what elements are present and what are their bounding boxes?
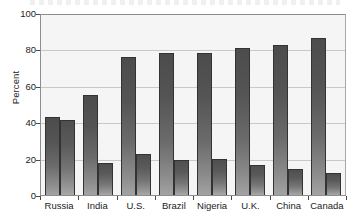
x-axis-tick-mark bbox=[346, 196, 347, 200]
bar-group bbox=[231, 15, 269, 195]
bar bbox=[159, 53, 174, 195]
x-axis-tick-label: Nigeria bbox=[193, 199, 231, 215]
x-axis-tick-label: U.K. bbox=[231, 199, 269, 215]
x-axis-tick-label: China bbox=[270, 199, 308, 215]
x-axis-tick-mark bbox=[308, 196, 309, 200]
bar-group bbox=[307, 15, 345, 195]
bar bbox=[60, 120, 75, 195]
bar bbox=[288, 169, 303, 195]
x-axis-tick-mark bbox=[117, 196, 118, 200]
bar bbox=[83, 95, 98, 195]
bar-group bbox=[155, 15, 193, 195]
bar-group bbox=[79, 15, 117, 195]
y-axis-tick-label: 20 bbox=[10, 155, 36, 165]
bar bbox=[121, 57, 136, 195]
y-axis-tick-label: 0 bbox=[10, 191, 36, 201]
bar bbox=[326, 173, 341, 195]
bar bbox=[273, 45, 288, 195]
y-axis: 020406080100 bbox=[0, 0, 36, 216]
cropped-title-artifact bbox=[30, 0, 340, 5]
x-axis-tick-mark bbox=[40, 196, 41, 200]
bar bbox=[197, 53, 212, 195]
bar bbox=[98, 163, 113, 195]
x-axis-tick-mark bbox=[155, 196, 156, 200]
x-axis-tick-label: Canada bbox=[308, 199, 346, 215]
bar-group bbox=[269, 15, 307, 195]
bar bbox=[235, 48, 250, 195]
bar-group bbox=[117, 15, 155, 195]
x-axis-tick-label: Russia bbox=[40, 199, 78, 215]
x-axis: RussiaIndiaU.S.BrazilNigeriaU.K.ChinaCan… bbox=[40, 199, 346, 215]
x-axis-tick-mark bbox=[231, 196, 232, 200]
x-axis-tick-label: Brazil bbox=[155, 199, 193, 215]
bars-layer bbox=[41, 15, 345, 195]
x-axis-tick-label: India bbox=[78, 199, 116, 215]
bar-chart-figure: Percent 020406080100 RussiaIndiaU.S.Braz… bbox=[0, 0, 358, 216]
y-axis-tick-label: 40 bbox=[10, 118, 36, 128]
x-axis-tick-label: U.S. bbox=[117, 199, 155, 215]
bar bbox=[174, 160, 189, 195]
bar-group bbox=[41, 15, 79, 195]
x-axis-tick-mark bbox=[78, 196, 79, 200]
bar bbox=[45, 117, 60, 195]
plot-area bbox=[40, 14, 346, 196]
x-axis-tick-mark bbox=[193, 196, 194, 200]
bar-group bbox=[193, 15, 231, 195]
bar bbox=[136, 154, 151, 195]
bar bbox=[212, 159, 227, 195]
y-axis-tick-label: 60 bbox=[10, 82, 36, 92]
bar bbox=[311, 38, 326, 195]
y-axis-tick-label: 100 bbox=[10, 9, 36, 19]
y-axis-tick-label: 80 bbox=[10, 45, 36, 55]
bar bbox=[250, 165, 265, 195]
x-axis-tick-mark bbox=[270, 196, 271, 200]
